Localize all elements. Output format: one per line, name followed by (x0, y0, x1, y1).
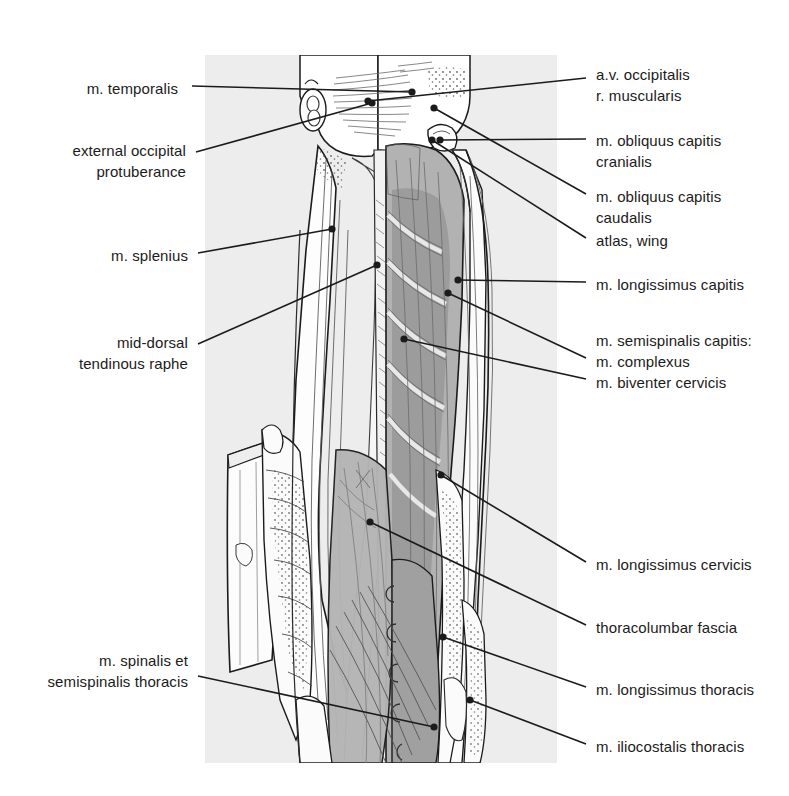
label-m-obliquus-capitis-cranialis: m. obliquus capitiscranialis (596, 130, 789, 172)
label-line: thoracolumbar fascia (596, 617, 789, 638)
label-line: m. complexus (596, 351, 789, 372)
label-line: r. muscularis (596, 85, 789, 106)
label-external-occipital-protuberance: external occipitalprotuberance (0, 140, 186, 182)
label-line: tendinous raphe (0, 353, 188, 374)
rib-head-knob (262, 425, 283, 453)
label-line: a.v. occipitalis (596, 64, 789, 85)
label-atlas-wing: atlas, wing (596, 230, 789, 251)
label-m-semispinalis-capitis: m. semispinalis capitis:m. complexusm. b… (596, 330, 789, 393)
leader-dot-mid-dorsal-tendinous-raphe (373, 261, 380, 268)
leader-dot-m-longissimus-cervicis (437, 471, 444, 478)
label-line: external occipital (0, 140, 186, 161)
label-line: protuberance (0, 161, 186, 182)
leader-dot-m-longissimus-thoracis (439, 633, 446, 640)
label-line: m. longissimus thoracis (596, 679, 789, 700)
label-m-obliquus-capitis-caudalis: m. obliquus capitiscaudalis (596, 186, 789, 228)
leader-dot-m-obliquus-capitis-caudalis (430, 104, 437, 111)
label-line: m. longissimus cervicis (596, 554, 789, 575)
label-m-iliocostalis-thoracis: m. iliocostalis thoracis (596, 736, 789, 757)
label-line: m. temporalis (0, 78, 178, 99)
label-line: m. biventer cervicis (596, 372, 789, 393)
label-line: m. obliquus capitis (596, 130, 789, 151)
label-line: m. splenius (0, 245, 188, 266)
leader-dot-m-obliquus-capitis-cranialis (436, 136, 443, 143)
label-line: m. obliquus capitis (596, 186, 789, 207)
leader-dot-m-semispinalis-capitis (444, 289, 451, 296)
label-line: semispinalis thoracis (0, 671, 188, 692)
label-line: m. spinalis et (0, 650, 188, 671)
leader-dot-m-longissimus-capitis (454, 276, 461, 283)
label-line: atlas, wing (596, 230, 789, 251)
label-thoracolumbar-fascia: thoracolumbar fascia (596, 617, 789, 638)
label-line: cranialis (596, 151, 789, 172)
label-line: caudalis (596, 207, 789, 228)
leader-dot-m-iliocostalis-thoracis (466, 696, 473, 703)
label-m-spinalis-et-semispinalis-thoracis: m. spinalis etsemispinalis thoracis (0, 650, 188, 692)
label-line: mid-dorsal (0, 332, 188, 353)
label-m-longissimus-cervicis: m. longissimus cervicis (596, 554, 789, 575)
label-av-occipitalis-r-muscularis: a.v. occipitalisr. muscularis (596, 64, 789, 106)
label-m-longissimus-thoracis: m. longissimus thoracis (596, 679, 789, 700)
label-line: m. longissimus capitis (596, 274, 789, 295)
leader-dot-m-semispinalis-capitis-b (400, 335, 407, 342)
label-line: m. semispinalis capitis: (596, 330, 789, 351)
leader-dot-thoracolumbar-fascia (366, 518, 373, 525)
leader-dot-m-spinalis-et-semispinalis-thoracis (430, 723, 437, 730)
leader-dot-m-splenius (328, 225, 335, 232)
label-m-temporalis: m. temporalis (0, 78, 178, 99)
leader-line-m-obliquus-capitis-cranialis (440, 139, 586, 140)
label-m-splenius: m. splenius (0, 245, 188, 266)
leader-dot-m-temporalis (408, 88, 415, 95)
label-line: m. iliocostalis thoracis (596, 736, 789, 757)
m-longissimus-thoracis (392, 559, 440, 763)
leader-dot-atlas-wing (428, 136, 435, 143)
label-m-longissimus-capitis: m. longissimus capitis (596, 274, 789, 295)
leader-dot-av-occipitalis-r-muscularis (364, 97, 371, 104)
label-mid-dorsal-tendinous-raphe: mid-dorsaltendinous raphe (0, 332, 188, 374)
